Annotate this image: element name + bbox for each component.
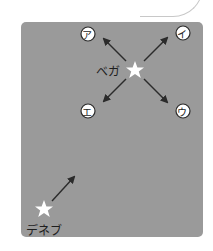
option-u-label: ウ [177, 104, 187, 119]
vega-label: ベガ [96, 62, 120, 79]
vega-star-icon [126, 61, 144, 78]
option-e-label: エ [82, 104, 92, 119]
arrow-to-u [144, 79, 167, 102]
arrow-to-a [104, 39, 126, 61]
arrow-to-e [104, 79, 126, 101]
option-a-label: ア [82, 27, 92, 42]
deneb-star-icon [35, 200, 53, 217]
deneb-arrow [52, 177, 74, 201]
arrow-to-i [144, 38, 167, 61]
deneb-label: デネブ [26, 221, 62, 238]
option-i-label: イ [177, 26, 187, 41]
